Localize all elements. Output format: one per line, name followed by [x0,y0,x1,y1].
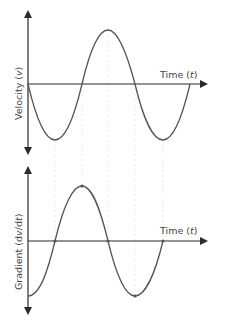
gradient-point [53,239,56,242]
gradient-point [161,239,164,242]
velocity-y-label: Velocity (v) [13,67,24,120]
gradient-x-label: Time (t) [159,225,197,236]
gradient-point [80,184,83,187]
gradient-point [133,294,136,297]
guide-lines [55,30,163,296]
gradient-y-label: Gradient (dv/dt) [13,214,24,290]
velocity-graph: Time (t) Velocity (v) [13,14,204,151]
velocity-x-label: Time (t) [159,69,197,80]
gradient-graph: Time (t) Gradient (dv/dt) [13,170,204,311]
gradient-point [106,239,109,242]
velocity-gradient-diagram: Time (t) Velocity (v) Time (t) Gradient … [0,0,226,323]
velocity-curve [28,30,190,140]
